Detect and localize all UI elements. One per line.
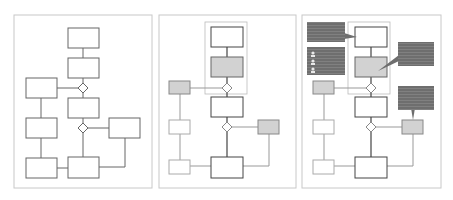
node — [211, 157, 243, 178]
panel-2 — [159, 15, 296, 188]
user-icon — [311, 59, 314, 62]
node — [26, 118, 57, 138]
node — [68, 58, 99, 78]
node — [68, 157, 99, 178]
node-faded — [169, 160, 190, 174]
node — [211, 27, 243, 47]
node — [26, 78, 57, 98]
user-icon — [311, 67, 314, 70]
node-faded — [169, 120, 190, 134]
panel-3 — [302, 15, 441, 188]
node-highlighted — [402, 120, 423, 134]
node — [26, 158, 57, 178]
node — [355, 97, 387, 117]
node-highlighted — [169, 81, 190, 94]
node-highlighted — [258, 120, 279, 134]
user-icon — [311, 51, 314, 54]
node — [355, 157, 387, 178]
node-highlighted — [355, 57, 387, 77]
node — [211, 97, 243, 117]
node-faded — [313, 160, 334, 174]
node-highlighted — [211, 57, 243, 77]
node — [68, 28, 99, 48]
panel-1 — [14, 15, 152, 188]
node-highlighted — [313, 81, 334, 94]
callout-user-list — [307, 47, 345, 75]
node — [355, 27, 387, 47]
diagram-figure — [0, 0, 453, 200]
node — [68, 98, 99, 118]
node-faded — [313, 120, 334, 134]
node — [109, 118, 140, 138]
